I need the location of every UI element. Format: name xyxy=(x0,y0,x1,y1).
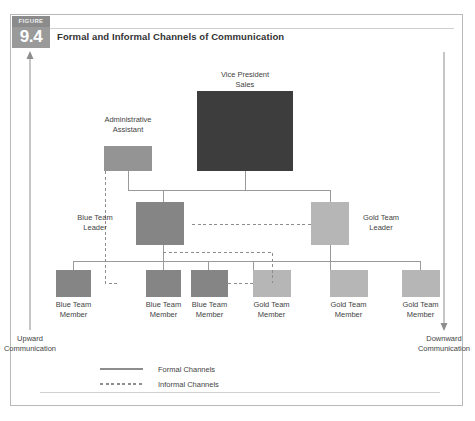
node-gold-team-member-2[interactable] xyxy=(330,270,368,297)
node-gold-team-member-3[interactable] xyxy=(402,270,440,297)
node-label-vice-president: Vice President Sales xyxy=(181,70,309,90)
node-label-blue-team-leader: Blue Team Leader xyxy=(56,213,134,233)
node-blue-team-leader[interactable] xyxy=(136,202,184,245)
node-gold-team-member-1[interactable] xyxy=(253,270,291,297)
title-rule xyxy=(50,28,454,29)
node-blue-team-member-1[interactable] xyxy=(56,270,91,297)
node-administrative-assistant[interactable] xyxy=(104,146,152,171)
legend-rule xyxy=(40,392,440,393)
node-label-administrative-assistant: Administrative Assistant xyxy=(64,115,192,135)
legend-label-formal: Formal Channels xyxy=(158,365,215,374)
node-label-blue-team-member-1: Blue Team Member xyxy=(37,300,110,320)
node-label-gold-team-member-3: Gold Team Member xyxy=(384,300,457,320)
node-label-gold-team-member-1: Gold Team Member xyxy=(235,300,308,320)
node-blue-team-member-2[interactable] xyxy=(146,270,181,297)
node-label-gold-team-member-2: Gold Team Member xyxy=(312,300,385,320)
annotation-downward-communication: Downward Communication xyxy=(400,334,475,354)
figure-title: Formal and Informal Channels of Communic… xyxy=(57,31,284,42)
figure-badge: FIGURE 9.4 xyxy=(12,16,50,48)
node-blue-team-member-3[interactable] xyxy=(191,270,228,297)
figure-badge-kicker: FIGURE xyxy=(12,16,50,27)
node-label-gold-team-leader: Gold Team Leader xyxy=(341,213,421,233)
node-vice-president[interactable] xyxy=(197,91,293,171)
figure-badge-number: 9.4 xyxy=(12,27,50,48)
figure-container: FIGURE 9.4 Formal and Informal Channels … xyxy=(0,0,475,421)
annotation-upward-communication: Upward Communication xyxy=(0,334,74,354)
legend-label-informal: Informal Channels xyxy=(158,380,219,389)
